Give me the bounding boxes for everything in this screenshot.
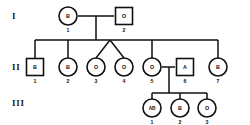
individual-ii-1[interactable]: B1	[27, 59, 44, 84]
blood-type-label: O	[122, 13, 126, 19]
blood-type-label: B	[66, 13, 70, 19]
individual-number-label: 7	[217, 78, 220, 84]
individual-iii-1[interactable]: AB1	[143, 99, 161, 125]
blood-type-label: O	[205, 105, 209, 111]
individual-iii-3[interactable]: O3	[198, 99, 216, 125]
individual-number-label: 4	[123, 78, 126, 84]
individual-number-label: 2	[179, 119, 182, 125]
pedigree-chart: I II III B1O2B1B2O3O4O5A6B7AB1B2O3	[0, 0, 250, 125]
blood-type-label: B	[33, 64, 37, 70]
twin-branch-right	[110, 40, 124, 58]
twin-connector	[96, 40, 124, 58]
blood-type-label: A	[183, 64, 187, 70]
individual-number-label: 3	[95, 78, 98, 84]
generation-label-III: III	[12, 98, 25, 108]
generation-label-II: II	[12, 62, 20, 72]
individual-ii-6[interactable]: A6	[177, 59, 194, 84]
individual-number-label: 1	[34, 78, 37, 84]
individual-ii-2[interactable]: B2	[59, 58, 77, 84]
individual-symbols: B1O2B1B2O3O4O5A6B7AB1B2O3	[27, 7, 228, 125]
blood-type-label: O	[94, 64, 98, 70]
individual-i-1[interactable]: B1	[59, 7, 77, 33]
twin-branch-left	[96, 40, 110, 58]
individual-ii-3[interactable]: O3	[87, 58, 105, 84]
blood-type-label: AB	[149, 106, 156, 111]
sibship-generation-2	[35, 40, 218, 58]
individual-ii-5[interactable]: O5	[143, 58, 161, 84]
pedigree-canvas: I II III B1O2B1B2O3O4O5A6B7AB1B2O3	[0, 0, 250, 125]
blood-type-label: O	[122, 64, 126, 70]
blood-type-label: B	[216, 64, 220, 70]
individual-number-label: 6	[184, 78, 187, 84]
generation-label-I: I	[12, 11, 16, 21]
individual-ii-4[interactable]: O4	[115, 58, 133, 84]
individual-number-label: 1	[151, 119, 154, 125]
generation-labels: I II III	[12, 11, 25, 108]
individual-number-label: 3	[206, 119, 209, 125]
blood-type-label: B	[66, 64, 70, 70]
blood-type-label: B	[178, 105, 182, 111]
individual-number-label: 1	[67, 27, 70, 33]
individual-i-2[interactable]: O2	[116, 8, 133, 33]
individual-number-label: 2	[67, 78, 70, 84]
mating-line-generation-1	[78, 16, 114, 40]
blood-type-label: O	[150, 64, 154, 70]
individual-iii-2[interactable]: B2	[171, 99, 189, 125]
mating-line-generation-2	[162, 67, 175, 93]
individual-ii-7[interactable]: B7	[209, 58, 227, 84]
individual-number-label: 5	[151, 78, 154, 84]
individual-number-label: 2	[123, 27, 126, 33]
